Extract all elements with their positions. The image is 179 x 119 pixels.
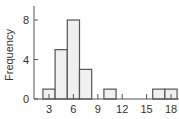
y-tick-label: 0 [23,93,29,105]
y-tick-label: 8 [23,14,29,26]
x-tick-label: 3 [46,103,52,115]
histogram-bar [67,20,79,99]
y-tick-label: 4 [23,54,29,66]
x-tick-label: 15 [140,103,152,115]
x-tick-label: 18 [165,103,177,115]
histogram-bar [55,50,67,99]
histogram-bar [104,89,116,99]
histogram-bar [153,89,165,99]
x-tick-label: 12 [116,103,128,115]
x-tick-label: 6 [70,103,76,115]
histogram-bar [80,69,92,99]
histogram-chart: 048369121518 [0,0,179,119]
x-tick-label: 9 [95,103,101,115]
